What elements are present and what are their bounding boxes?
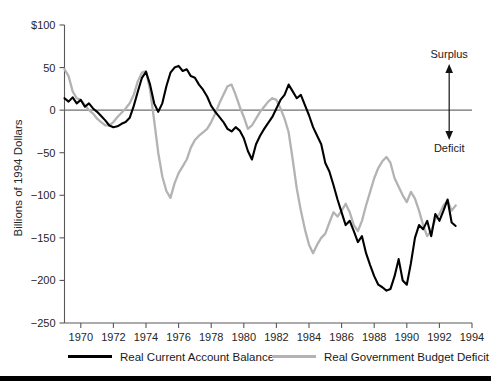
chart-figure: Billions of 1994 Dollars $100500−50−100−… [0,0,491,386]
x-tick-label: 1980 [232,331,256,343]
legend-label-budget-deficit: Real Government Budget Deficit [324,351,490,363]
x-tick-label: 1976 [166,331,190,343]
x-tick-label: 1992 [427,331,451,343]
x-tick-label: 1984 [297,331,321,343]
surplus-label: Surplus [431,48,469,60]
chart-background [0,0,491,386]
x-tick-label: 1986 [329,331,353,343]
y-tick-label: −100 [31,189,56,201]
y-tick-label: 0 [49,104,55,116]
x-tick-label: 1978 [199,331,223,343]
y-tick-label: −50 [37,147,56,159]
deficit-label: Deficit [434,142,465,154]
y-axis-title: Billions of 1994 Dollars [12,119,24,236]
x-tick-label: 1974 [134,331,158,343]
x-tick-label: 1970 [69,331,93,343]
y-tick-label: −200 [31,274,56,286]
y-tick-label: 50 [43,62,55,74]
x-tick-label: 1988 [362,331,386,343]
footer-rule [0,376,491,381]
y-tick-label: −250 [31,317,56,329]
x-tick-label: 1990 [395,331,419,343]
x-tick-label: 1972 [101,331,125,343]
y-tick-label: $100 [31,19,55,31]
economics-line-chart: Billions of 1994 Dollars $100500−50−100−… [0,0,491,386]
x-tick-label: 1982 [264,331,288,343]
legend-label-current-account: Real Current Account Balance [120,351,274,363]
x-tick-label: 1994 [460,331,484,343]
y-tick-label: −150 [31,232,56,244]
